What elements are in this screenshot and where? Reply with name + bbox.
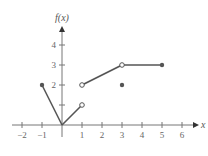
x-tick-label: 5	[160, 130, 165, 140]
x-tick-label: 3	[120, 130, 125, 140]
x-tick-label: 4	[140, 130, 145, 140]
x-tick-label: −2	[17, 130, 27, 140]
closed-point	[40, 83, 44, 87]
open-point	[80, 103, 85, 108]
x-tick-label: −1	[37, 130, 47, 140]
y-tick-label: 4	[52, 40, 57, 50]
open-point	[120, 63, 125, 68]
y-axis-label: f(x)	[55, 12, 70, 24]
x-tick-label: 6	[180, 130, 185, 140]
function-segment	[82, 65, 122, 85]
x-axis-label: x	[200, 119, 206, 130]
y-tick-label: 3	[52, 60, 57, 70]
piecewise-function-graph: −2−1123456234 x f(x)	[0, 0, 208, 156]
y-tick-label: 2	[52, 80, 57, 90]
x-tick-label: 2	[100, 130, 105, 140]
function-points	[40, 63, 164, 108]
function-segments	[42, 65, 162, 125]
open-point	[80, 83, 85, 88]
x-tick-label: 1	[80, 130, 85, 140]
axes	[12, 29, 196, 137]
function-segment	[62, 105, 82, 125]
closed-point	[160, 63, 164, 67]
tick-marks	[22, 45, 182, 128]
closed-point	[120, 83, 124, 87]
